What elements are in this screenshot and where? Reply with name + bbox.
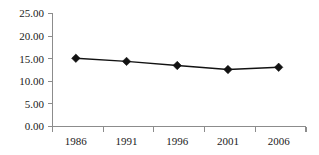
x-tick-label: 1996 (166, 135, 189, 147)
line-chart: 0.005.0010.0015.0020.0025.00 19861991199… (0, 0, 319, 155)
x-tick-label: 1986 (65, 135, 88, 147)
y-tick-label: 20.00 (19, 30, 44, 42)
y-tick-label: 0.00 (25, 120, 45, 132)
x-tick-label: 2006 (268, 135, 291, 147)
chart-canvas: 0.005.0010.0015.0020.0025.00 19861991199… (0, 0, 319, 155)
y-tick-label: 15.00 (19, 53, 44, 65)
y-tick-label: 10.00 (19, 75, 44, 87)
chart-background (0, 0, 319, 155)
x-tick-label: 1991 (116, 135, 138, 147)
x-tick-label: 2001 (217, 135, 239, 147)
y-tick-label: 25.00 (19, 7, 44, 19)
y-tick-label: 5.00 (25, 98, 45, 110)
